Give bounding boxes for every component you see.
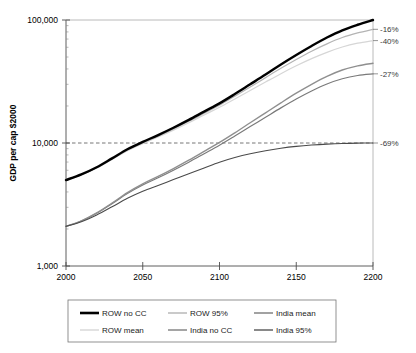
gdp-per-capita-line-chart: 100,00010,0001,000 20002050210021502200 … — [0, 0, 416, 353]
y-axis-title-text: GDP per cap $2000 — [8, 104, 18, 181]
annotation-label-69: -69% — [380, 139, 399, 148]
data-series-group — [66, 20, 373, 226]
right-annotations: -16%-40%-27%-69% — [373, 25, 399, 148]
legend-label-text: India 95% — [276, 326, 312, 335]
x-tick-label-2200: 2200 — [364, 272, 383, 282]
y-tick-label-1,000: 1,000 — [37, 261, 59, 271]
legend-box — [68, 300, 336, 342]
annotation-label-27: -27% — [380, 70, 399, 79]
x-tick-label-2150: 2150 — [287, 272, 306, 282]
y-tick-label-100,000: 100,000 — [27, 15, 58, 25]
legend-label-text: ROW 95% — [190, 309, 228, 318]
x-tick-label-2100: 2100 — [210, 272, 229, 282]
chart-container: 100,00010,0001,000 20002050210021502200 … — [0, 0, 416, 353]
x-tick-label-2050: 2050 — [133, 272, 152, 282]
y-tick-label-10,000: 10,000 — [32, 138, 58, 148]
legend-label-text: ROW mean — [102, 326, 144, 335]
series-line-india-95- — [66, 143, 373, 226]
y-axis-tick-labels: 100,00010,0001,000 — [27, 15, 58, 271]
y-axis-title: GDP per cap $2000 — [8, 104, 18, 181]
axis-ticks — [62, 20, 373, 270]
annotation-label-40: -40% — [380, 37, 399, 46]
legend-label-text: India mean — [276, 309, 316, 318]
legend-label-text: India no CC — [190, 326, 232, 335]
legend-label-text: ROW no CC — [102, 309, 147, 318]
x-tick-label-2000: 2000 — [57, 272, 76, 282]
annotation-label-16: -16% — [380, 25, 399, 34]
legend: ROW no CCROW 95%India meanROW meanIndia … — [68, 300, 336, 342]
x-axis-tick-labels: 20002050210021502200 — [57, 272, 383, 282]
